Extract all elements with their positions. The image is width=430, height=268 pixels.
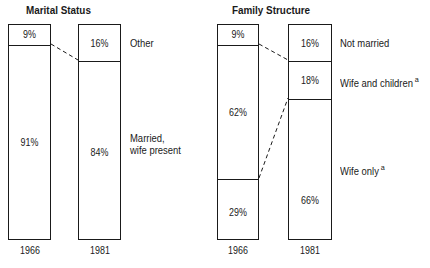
marital-connector <box>51 44 78 60</box>
family-connector-bottom <box>259 98 288 178</box>
connector-lines <box>0 0 430 268</box>
family-connector-top <box>259 44 288 60</box>
